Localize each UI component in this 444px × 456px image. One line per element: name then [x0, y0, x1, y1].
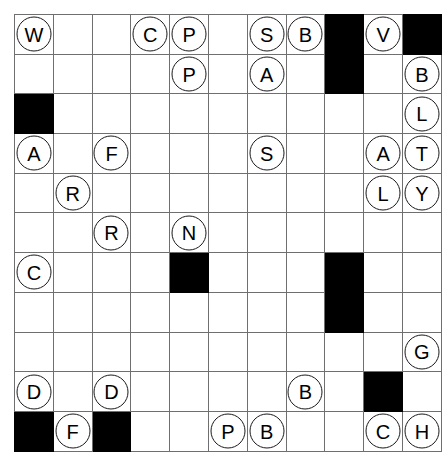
- grid-cell-letter[interactable]: P: [170, 15, 209, 55]
- grid-cell-empty[interactable]: [15, 332, 54, 372]
- grid-cell-empty[interactable]: [286, 332, 325, 372]
- grid-cell-empty[interactable]: [247, 253, 286, 293]
- grid-cell-letter[interactable]: S: [247, 134, 286, 174]
- grid-cell-empty[interactable]: [131, 253, 170, 293]
- letter-token[interactable]: C: [133, 17, 168, 52]
- grid-cell-letter[interactable]: N: [170, 213, 209, 253]
- letter-token[interactable]: R: [55, 176, 90, 211]
- grid-cell-empty[interactable]: [208, 292, 247, 332]
- grid-cell-empty[interactable]: [247, 94, 286, 134]
- grid-cell-empty[interactable]: [131, 332, 170, 372]
- grid-cell-empty[interactable]: [92, 253, 131, 293]
- grid-cell-empty[interactable]: [92, 94, 131, 134]
- grid-cell-letter[interactable]: F: [53, 411, 92, 451]
- grid-cell-empty[interactable]: [15, 292, 54, 332]
- grid-cell-empty[interactable]: [286, 253, 325, 293]
- grid-cell-empty[interactable]: [131, 173, 170, 213]
- grid-cell-empty[interactable]: [131, 54, 170, 94]
- grid-cell-letter[interactable]: R: [53, 173, 92, 213]
- grid-cell-empty[interactable]: [53, 253, 92, 293]
- letter-token[interactable]: T: [404, 136, 439, 171]
- grid-cell-letter[interactable]: C: [131, 15, 170, 55]
- grid-cell-blocked[interactable]: [402, 15, 441, 55]
- grid-cell-empty[interactable]: [92, 332, 131, 372]
- grid-cell-empty[interactable]: [402, 292, 441, 332]
- grid-cell-empty[interactable]: [131, 292, 170, 332]
- grid-cell-blocked[interactable]: [325, 15, 364, 55]
- grid-cell-empty[interactable]: [364, 213, 403, 253]
- grid-cell-blocked[interactable]: [92, 411, 131, 451]
- grid-cell-empty[interactable]: [53, 94, 92, 134]
- grid-cell-letter[interactable]: W: [15, 15, 54, 55]
- letter-token[interactable]: S: [249, 17, 284, 52]
- grid-cell-letter[interactable]: B: [247, 411, 286, 451]
- grid-cell-blocked[interactable]: [325, 253, 364, 293]
- grid-cell-empty[interactable]: [208, 54, 247, 94]
- grid-cell-empty[interactable]: [364, 94, 403, 134]
- grid-cell-empty[interactable]: [92, 54, 131, 94]
- grid-cell-empty[interactable]: [286, 134, 325, 174]
- grid-cell-blocked[interactable]: [15, 411, 54, 451]
- grid-cell-empty[interactable]: [247, 173, 286, 213]
- grid-cell-empty[interactable]: [131, 372, 170, 412]
- grid-cell-letter[interactable]: S: [247, 15, 286, 55]
- grid-cell-letter[interactable]: B: [286, 372, 325, 412]
- grid-cell-empty[interactable]: [208, 332, 247, 372]
- grid-cell-letter[interactable]: P: [208, 411, 247, 451]
- grid-cell-empty[interactable]: [53, 332, 92, 372]
- grid-cell-empty[interactable]: [364, 292, 403, 332]
- grid-cell-letter[interactable]: L: [364, 173, 403, 213]
- grid-cell-letter[interactable]: H: [402, 411, 441, 451]
- grid-cell-empty[interactable]: [131, 134, 170, 174]
- grid-cell-empty[interactable]: [402, 372, 441, 412]
- letter-token[interactable]: V: [366, 17, 401, 52]
- grid-cell-empty[interactable]: [92, 292, 131, 332]
- grid-cell-empty[interactable]: [402, 253, 441, 293]
- letter-token[interactable]: D: [16, 374, 51, 409]
- grid-cell-empty[interactable]: [402, 213, 441, 253]
- grid-cell-letter[interactable]: R: [92, 213, 131, 253]
- grid-cell-letter[interactable]: D: [15, 372, 54, 412]
- grid-cell-empty[interactable]: [364, 253, 403, 293]
- grid-cell-empty[interactable]: [53, 213, 92, 253]
- letter-token[interactable]: Y: [404, 176, 439, 211]
- grid-cell-letter[interactable]: B: [402, 54, 441, 94]
- grid-cell-blocked[interactable]: [364, 372, 403, 412]
- grid-cell-empty[interactable]: [170, 332, 209, 372]
- grid-cell-empty[interactable]: [286, 54, 325, 94]
- letter-token[interactable]: F: [55, 414, 90, 449]
- grid-cell-empty[interactable]: [53, 54, 92, 94]
- grid-cell-empty[interactable]: [325, 332, 364, 372]
- grid-cell-empty[interactable]: [53, 134, 92, 174]
- grid-cell-letter[interactable]: C: [15, 253, 54, 293]
- letter-token[interactable]: F: [94, 136, 129, 171]
- letter-token[interactable]: L: [366, 176, 401, 211]
- grid-cell-letter[interactable]: A: [247, 54, 286, 94]
- grid-cell-letter[interactable]: D: [92, 372, 131, 412]
- grid-cell-empty[interactable]: [325, 411, 364, 451]
- letter-token[interactable]: A: [249, 57, 284, 92]
- grid-cell-empty[interactable]: [131, 411, 170, 451]
- letter-token[interactable]: B: [249, 414, 284, 449]
- grid-cell-letter[interactable]: F: [92, 134, 131, 174]
- grid-cell-empty[interactable]: [208, 173, 247, 213]
- letter-token[interactable]: C: [16, 255, 51, 290]
- grid-cell-empty[interactable]: [131, 94, 170, 134]
- grid-cell-letter[interactable]: A: [364, 134, 403, 174]
- grid-cell-letter[interactable]: V: [364, 15, 403, 55]
- letter-token[interactable]: B: [288, 374, 323, 409]
- grid-cell-empty[interactable]: [15, 213, 54, 253]
- grid-cell-empty[interactable]: [325, 213, 364, 253]
- letter-token[interactable]: H: [404, 414, 439, 449]
- letter-token[interactable]: A: [366, 136, 401, 171]
- grid-cell-empty[interactable]: [53, 15, 92, 55]
- letter-token[interactable]: P: [172, 17, 207, 52]
- letter-token[interactable]: L: [404, 96, 439, 131]
- grid-cell-empty[interactable]: [286, 411, 325, 451]
- grid-cell-empty[interactable]: [247, 372, 286, 412]
- grid-cell-letter[interactable]: C: [364, 411, 403, 451]
- letter-token[interactable]: S: [249, 136, 284, 171]
- grid-cell-empty[interactable]: [131, 213, 170, 253]
- grid-cell-empty[interactable]: [208, 15, 247, 55]
- letter-token[interactable]: P: [210, 414, 245, 449]
